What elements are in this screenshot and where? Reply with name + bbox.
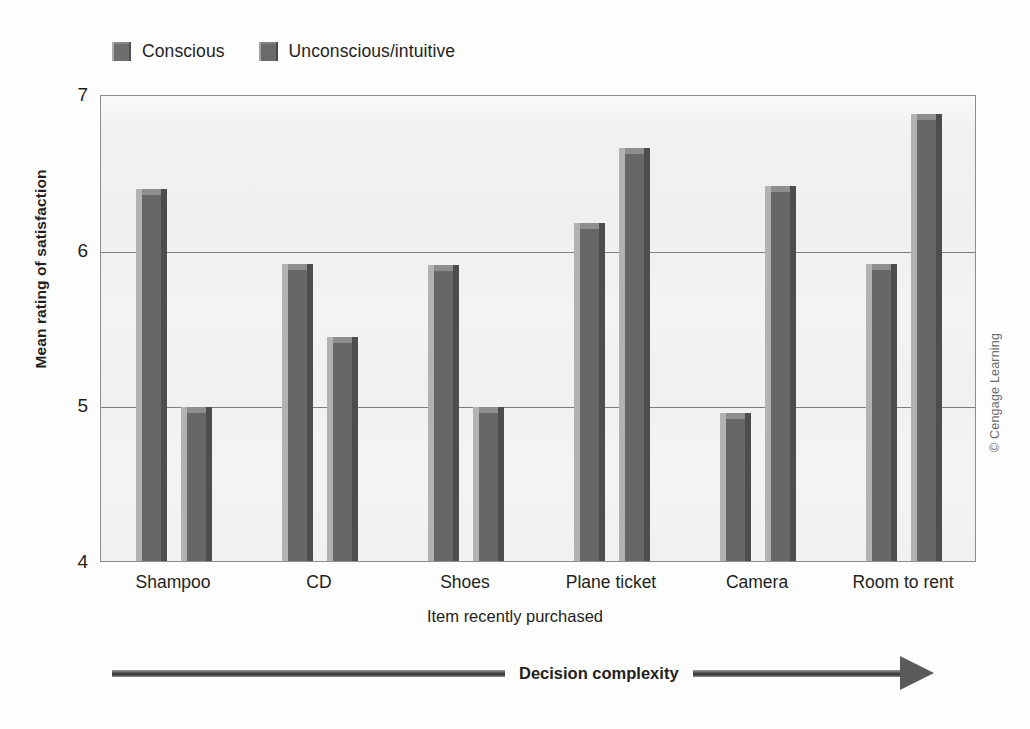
y-axis-title: Mean rating of satisfaction <box>32 154 50 384</box>
gridline-6 <box>101 252 975 253</box>
bar-left-face <box>327 337 333 561</box>
bar-shampoo-unconscious-intuitive <box>181 407 212 561</box>
arrow-head-icon <box>900 656 934 690</box>
bar-shoes-unconscious-intuitive <box>473 407 504 561</box>
bar-right-face <box>352 337 358 561</box>
bar-left-face <box>282 264 288 561</box>
bar-left-face <box>765 186 771 561</box>
x-tick-label-shampoo: Shampoo <box>136 572 211 593</box>
legend-label-unconscious: Unconscious/intuitive <box>289 41 456 62</box>
legend-item-unconscious: Unconscious/intuitive <box>259 41 456 62</box>
y-tick-label-5: 5 <box>58 395 88 417</box>
bar-left-face <box>911 114 917 561</box>
bar-room-to-rent-conscious <box>866 264 897 561</box>
legend-swatch-icon <box>112 42 131 61</box>
bar-shoes-conscious <box>428 265 459 561</box>
bar-right-face <box>790 186 796 561</box>
bar-camera-conscious <box>720 413 751 561</box>
x-tick-label-plane-ticket: Plane ticket <box>566 572 656 593</box>
decision-complexity-annotation: Decision complexity <box>112 658 934 688</box>
legend-swatch-icon <box>259 42 278 61</box>
y-tick-label-7: 7 <box>58 84 88 106</box>
bar-left-face <box>619 148 625 561</box>
bar-right-face <box>307 264 313 561</box>
bar-left-face <box>473 407 479 561</box>
bar-right-face <box>891 264 897 561</box>
bar-shampoo-conscious <box>136 189 167 561</box>
bar-camera-unconscious-intuitive <box>765 186 796 561</box>
bar-left-face <box>866 264 872 561</box>
copyright-credit: © Cengage Learning <box>988 333 1002 452</box>
bar-right-face <box>745 413 751 561</box>
x-tick-label-cd: CD <box>306 572 331 593</box>
bar-right-face <box>498 407 504 561</box>
bar-right-face <box>161 189 167 561</box>
decision-complexity-label: Decision complexity <box>505 664 693 683</box>
bar-right-face <box>936 114 942 561</box>
bar-left-face <box>720 413 726 561</box>
legend-label-conscious: Conscious <box>142 41 225 62</box>
gridline-5 <box>101 407 975 408</box>
plot-area <box>100 95 976 562</box>
y-tick-label-4: 4 <box>58 551 88 573</box>
x-tick-label-camera: Camera <box>726 572 788 593</box>
bar-cd-conscious <box>282 264 313 561</box>
y-tick-label-6: 6 <box>58 240 88 262</box>
bar-room-to-rent-unconscious-intuitive <box>911 114 942 561</box>
bar-right-face <box>206 407 212 561</box>
legend-item-conscious: Conscious <box>112 41 225 62</box>
arrow-line-left <box>112 670 505 677</box>
bar-right-face <box>599 223 605 561</box>
bar-left-face <box>136 189 142 561</box>
bar-right-face <box>453 265 459 561</box>
bar-left-face <box>574 223 580 561</box>
bar-left-face <box>181 407 187 561</box>
bar-cd-unconscious-intuitive <box>327 337 358 561</box>
chart-legend: Conscious Unconscious/intuitive <box>112 38 455 64</box>
x-tick-label-room-to-rent: Room to rent <box>852 572 953 593</box>
arrow-line-right <box>693 670 901 677</box>
x-axis-title: Item recently purchased <box>0 607 1030 626</box>
figure-container: Conscious Unconscious/intuitive 7654 Mea… <box>0 0 1030 729</box>
bar-plane-ticket-unconscious-intuitive <box>619 148 650 561</box>
bar-right-face <box>644 148 650 561</box>
bar-plane-ticket-conscious <box>574 223 605 561</box>
x-tick-label-shoes: Shoes <box>440 572 490 593</box>
bar-left-face <box>428 265 434 561</box>
